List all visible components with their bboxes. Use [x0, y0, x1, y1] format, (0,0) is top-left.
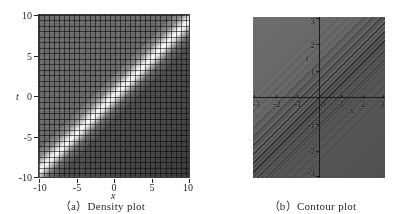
y-tick-mark: [34, 15, 38, 16]
x-tick-label: 1: [340, 99, 345, 109]
y-tick-label: -5: [2, 132, 32, 143]
x-tick-label: 5: [150, 182, 155, 193]
density-plot-panel: 10 5 0 -5 -10 t -10 -5 0 5 10 x （a）Densi…: [0, 0, 205, 214]
t-tick-label: 2: [295, 40, 315, 50]
y-axis-label: t: [16, 91, 19, 102]
x-tick-label: 3: [380, 99, 385, 109]
y-tick-mark: [34, 137, 38, 138]
t-tick-label: -2: [295, 146, 315, 156]
t-tick-label: 1: [295, 67, 315, 77]
t-tick-mark: [316, 151, 319, 152]
t-tick-mark: [316, 71, 319, 72]
x-tick-label: -1: [294, 99, 302, 109]
t-tick-label: -3: [295, 168, 315, 178]
t-tick-mark: [316, 18, 319, 19]
t-tick-mark: [316, 176, 319, 177]
x-tick-label: -10: [33, 182, 46, 193]
y-tick-label: 5: [2, 51, 32, 62]
contour-plot-caption: （b）Contour plot: [205, 197, 420, 213]
y-tick-label: -10: [2, 172, 32, 183]
contour-y-axis-label: t: [306, 53, 309, 63]
figure-row: 10 5 0 -5 -10 t -10 -5 0 5 10 x （a）Densi…: [0, 0, 420, 214]
x-tick-mark: [363, 95, 364, 98]
t-tick-label: -1: [295, 120, 315, 130]
density-plot-area: [38, 14, 190, 178]
y-tick-mark: [34, 177, 38, 178]
x-tick-mark: [297, 95, 298, 98]
x-tick-label: -5: [73, 182, 81, 193]
contour-plot-area: 3 2 1 -1 -2 -3 t -3 -2 -1 0 1 2 3 x: [253, 17, 385, 178]
contour-plot-panel: 3 2 1 -1 -2 -3 t -3 -2 -1 0 1 2 3 x （b）C…: [205, 0, 420, 214]
y-tick-mark: [34, 96, 38, 97]
density-ripples: [38, 14, 190, 178]
x-tick-mark: [383, 95, 384, 98]
x-tick-label: 2: [361, 99, 366, 109]
t-tick-mark: [316, 124, 319, 125]
x-tick-mark: [276, 95, 277, 98]
contour-horizontal-axis: [253, 97, 385, 98]
x-tick-label: -2: [273, 99, 281, 109]
x-tick-mark: [254, 95, 255, 98]
x-tick-mark: [341, 95, 342, 98]
t-tick-mark: [316, 44, 319, 45]
y-tick-mark: [34, 56, 38, 57]
contour-x-axis-label: x: [350, 105, 354, 115]
y-tick-label: 10: [2, 10, 32, 21]
x-tick-label: 10: [183, 182, 193, 193]
x-tick-label: -3: [253, 99, 260, 109]
t-tick-label: 3: [295, 17, 315, 26]
density-plot-caption: （a）Density plot: [0, 197, 205, 213]
x-tick-label: 0: [321, 99, 326, 109]
